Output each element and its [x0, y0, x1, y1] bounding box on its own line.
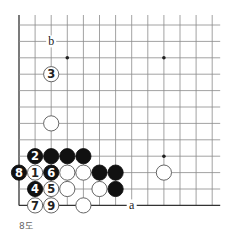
black-stone — [60, 149, 75, 164]
white-stone — [92, 181, 107, 196]
move-number: 4 — [31, 182, 39, 196]
move-number: 6 — [47, 166, 55, 180]
marker-b: b — [48, 34, 54, 48]
diagram-caption: 8도 — [19, 219, 33, 232]
black-stone — [76, 149, 91, 164]
star-point — [66, 56, 70, 60]
white-stone — [60, 165, 75, 180]
star-point — [162, 154, 166, 158]
black-stone — [44, 149, 59, 164]
white-stone — [76, 198, 91, 213]
go-board-diagram: ba 328164579 — [0, 0, 233, 235]
white-stone — [44, 116, 59, 131]
marker-a: a — [129, 198, 135, 212]
white-stone — [60, 181, 75, 196]
move-number: 5 — [47, 182, 55, 196]
black-stone — [92, 165, 107, 180]
move-number: 9 — [47, 199, 55, 213]
move-number: 8 — [15, 166, 23, 180]
star-point — [162, 56, 166, 60]
white-stone — [76, 165, 91, 180]
move-number: 7 — [31, 199, 39, 213]
white-stone — [156, 165, 171, 180]
move-number: 1 — [31, 166, 39, 180]
move-number: 2 — [31, 149, 39, 163]
black-stone — [108, 165, 123, 180]
black-stone — [108, 181, 123, 196]
move-number: 3 — [47, 67, 55, 81]
